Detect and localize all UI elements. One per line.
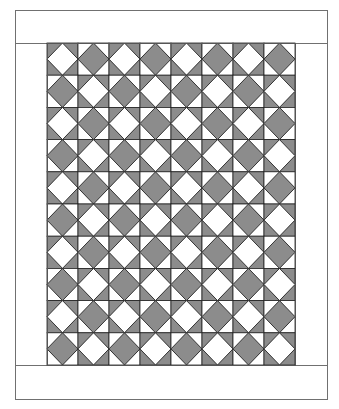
quilt-block-white-diamond-gray-corners (47, 43, 78, 75)
quilt-block-white-diamond-gray-corners (47, 301, 78, 333)
quilt-block-white-diamond-gray-corners (171, 107, 202, 139)
quilt-block-white-diamond-gray-corners (140, 204, 171, 236)
quilt-block-gray-diamond-white-corners (233, 268, 264, 300)
quilt-block-gray-diamond-white-corners (140, 43, 171, 75)
quilt-block-gray-diamond-white-corners (171, 140, 202, 172)
quilt-block-white-diamond-gray-corners (171, 236, 202, 268)
quilt-block-white-diamond-gray-corners (47, 107, 78, 139)
quilt-block-white-diamond-gray-corners (233, 43, 264, 75)
quilt-block-gray-diamond-white-corners (78, 301, 109, 333)
quilt-block-gray-diamond-white-corners (202, 172, 233, 204)
quilt-block-gray-diamond-white-corners (171, 268, 202, 300)
quilt-block-white-diamond-gray-corners (78, 75, 109, 107)
quilt-block-gray-diamond-white-corners (171, 75, 202, 107)
quilt-block-gray-diamond-white-corners (109, 75, 140, 107)
quilt-block-white-diamond-gray-corners (202, 140, 233, 172)
quilt-block-white-diamond-gray-corners (109, 236, 140, 268)
quilt-block-gray-diamond-white-corners (47, 140, 78, 172)
quilt-block-white-diamond-gray-corners (78, 268, 109, 300)
quilt-block-gray-diamond-white-corners (202, 236, 233, 268)
quilt-block-white-diamond-gray-corners (140, 140, 171, 172)
quilt-block-gray-diamond-white-corners (233, 204, 264, 236)
quilt-block-white-diamond-gray-corners (202, 204, 233, 236)
quilt-block-white-diamond-gray-corners (140, 75, 171, 107)
quilt-block-gray-diamond-white-corners (109, 268, 140, 300)
quilt-block-white-diamond-gray-corners (233, 236, 264, 268)
quilt-block-white-diamond-gray-corners (109, 301, 140, 333)
quilt-block-gray-diamond-white-corners (171, 333, 202, 365)
quilt-block-gray-diamond-white-corners (109, 333, 140, 365)
quilt-block-gray-diamond-white-corners (264, 301, 295, 333)
quilt-block-white-diamond-gray-corners (264, 333, 295, 365)
quilt-block-white-diamond-gray-corners (171, 301, 202, 333)
quilt-block-white-diamond-gray-corners (78, 140, 109, 172)
quilt-block-gray-diamond-white-corners (202, 301, 233, 333)
quilt-block-gray-diamond-white-corners (264, 43, 295, 75)
quilt-block-gray-diamond-white-corners (109, 140, 140, 172)
quilt-block-gray-diamond-white-corners (140, 172, 171, 204)
quilt-block-white-diamond-gray-corners (264, 140, 295, 172)
quilt-block-gray-diamond-white-corners (264, 107, 295, 139)
quilt-block-white-diamond-gray-corners (140, 268, 171, 300)
quilt-block-white-diamond-gray-corners (47, 172, 78, 204)
quilt-block-gray-diamond-white-corners (47, 268, 78, 300)
quilt-block-white-diamond-gray-corners (202, 333, 233, 365)
quilt-block-white-diamond-gray-corners (109, 107, 140, 139)
quilt-block-gray-diamond-white-corners (109, 204, 140, 236)
quilt-block-gray-diamond-white-corners (140, 107, 171, 139)
quilt-block-gray-diamond-white-corners (47, 333, 78, 365)
quilt-block-gray-diamond-white-corners (171, 204, 202, 236)
quilt-block-white-diamond-gray-corners (171, 172, 202, 204)
quilt-block-white-diamond-gray-corners (109, 172, 140, 204)
quilt-block-white-diamond-gray-corners (47, 236, 78, 268)
quilt-block-gray-diamond-white-corners (78, 236, 109, 268)
quilt-block-gray-diamond-white-corners (78, 107, 109, 139)
quilt-block-white-diamond-gray-corners (233, 107, 264, 139)
quilt-block-gray-diamond-white-corners (233, 140, 264, 172)
quilt-block-white-diamond-gray-corners (233, 172, 264, 204)
quilt-block-white-diamond-gray-corners (171, 43, 202, 75)
quilt-block-white-diamond-gray-corners (233, 301, 264, 333)
quilt-block-white-diamond-gray-corners (264, 204, 295, 236)
quilt-block-gray-diamond-white-corners (78, 172, 109, 204)
quilt-block-gray-diamond-white-corners (202, 107, 233, 139)
quilt-diagram (0, 0, 339, 409)
quilt-center-blocks (47, 43, 295, 365)
quilt-block-gray-diamond-white-corners (264, 236, 295, 268)
quilt-block-white-diamond-gray-corners (109, 43, 140, 75)
quilt-block-gray-diamond-white-corners (233, 75, 264, 107)
quilt-block-gray-diamond-white-corners (47, 204, 78, 236)
quilt-block-gray-diamond-white-corners (78, 43, 109, 75)
quilt-block-white-diamond-gray-corners (78, 333, 109, 365)
quilt-block-white-diamond-gray-corners (202, 75, 233, 107)
quilt-block-gray-diamond-white-corners (47, 75, 78, 107)
quilt-block-white-diamond-gray-corners (202, 268, 233, 300)
quilt-block-gray-diamond-white-corners (264, 172, 295, 204)
quilt-block-white-diamond-gray-corners (78, 204, 109, 236)
quilt-block-gray-diamond-white-corners (140, 236, 171, 268)
quilt-block-gray-diamond-white-corners (140, 301, 171, 333)
quilt-block-white-diamond-gray-corners (264, 268, 295, 300)
quilt-block-gray-diamond-white-corners (202, 43, 233, 75)
quilt-block-white-diamond-gray-corners (264, 75, 295, 107)
quilt-block-white-diamond-gray-corners (140, 333, 171, 365)
quilt-block-gray-diamond-white-corners (233, 333, 264, 365)
